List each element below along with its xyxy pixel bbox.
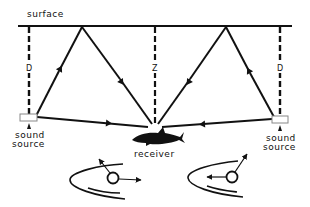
left-depth-label: D bbox=[26, 64, 33, 73]
right-depth-label: D bbox=[277, 64, 284, 73]
right-source-pointer-icon bbox=[278, 125, 282, 131]
surface-label: surface bbox=[27, 10, 64, 19]
inner-ear-right bbox=[188, 154, 247, 197]
left-reflected-path bbox=[36, 27, 152, 124]
right-reflected-path bbox=[158, 27, 274, 124]
left-source-pointer-icon bbox=[27, 123, 31, 129]
center-depth-label: Z bbox=[152, 64, 158, 73]
right-sound-source bbox=[272, 116, 288, 123]
right-source-label-line2: source bbox=[263, 143, 296, 152]
sound-path-diagram bbox=[0, 0, 310, 207]
receiver-label: receiver bbox=[134, 150, 175, 159]
inner-ear-left bbox=[70, 159, 141, 199]
left-source-label-line2: source bbox=[12, 140, 45, 149]
left-sound-source bbox=[20, 114, 37, 121]
shark-icon bbox=[132, 127, 185, 146]
